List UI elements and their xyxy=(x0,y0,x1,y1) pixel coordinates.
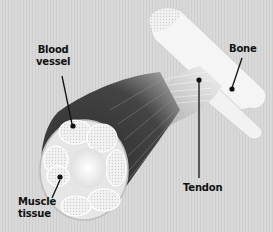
label-tendon: Tendon xyxy=(183,182,222,194)
label-muscle-tissue: Muscle tissue xyxy=(18,196,56,220)
diagram-canvas: Blood vessel Bone Tendon Muscle tissue xyxy=(0,0,273,232)
central-bundle xyxy=(70,148,106,188)
label-blood-vessel: Blood vessel xyxy=(36,44,70,68)
label-bone: Bone xyxy=(229,43,257,55)
